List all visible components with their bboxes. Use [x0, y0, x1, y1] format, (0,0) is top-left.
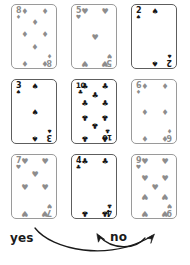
suit-hearts-icon: ♥	[140, 209, 150, 217]
suit-diamonds-icon: ♦	[30, 42, 40, 50]
suit-spades-icon: ♠	[30, 83, 40, 91]
suit-clubs-icon: ♣	[100, 83, 110, 91]
card-pip-field: ♥♥♥♥♥♥♥♥♥	[141, 158, 169, 217]
suit-diamonds-icon: ♦	[160, 109, 170, 117]
card-pip-field: ♠♠	[141, 8, 169, 67]
card-3-of-spades[interactable]: 3♠3♠♠♠♠	[11, 79, 57, 144]
suit-diamonds-icon: ♦	[20, 31, 30, 39]
suit-hearts-icon: ♥	[20, 209, 30, 217]
suit-clubs-icon: ♣	[100, 134, 110, 142]
suit-hearts-icon: ♥	[140, 175, 150, 183]
suit-clubs-icon: ♣	[80, 113, 90, 121]
suit-spades-icon: ♠	[30, 109, 40, 117]
card-6-of-diamonds[interactable]: 6♦6♦♦♦♦♦♦♦	[131, 79, 177, 144]
suit-diamonds-icon: ♦	[40, 59, 50, 67]
suit-hearts-icon: ♥	[40, 184, 50, 192]
suit-hearts-icon: ♥	[20, 184, 30, 192]
card-pip-field: ♣♣♣♣	[81, 158, 109, 217]
card-2-of-spades[interactable]: 2♠2♠♠♠	[131, 4, 177, 69]
suit-clubs-icon: ♣	[90, 92, 100, 100]
suit-clubs-icon: ♣	[80, 134, 90, 142]
suit-hearts-icon: ♥	[100, 8, 110, 16]
card-8-of-diamonds[interactable]: 8♦8♦♦♦♦♦♦♦♦♦	[11, 4, 57, 69]
card-pip-field: ♦♦♦♦♦♦♦♦	[21, 8, 49, 67]
suit-hearts-icon: ♥	[80, 8, 90, 16]
suit-diamonds-icon: ♦	[20, 59, 30, 67]
card-pip-field: ♦♦♦♦♦♦	[141, 83, 169, 142]
card-9-of-hearts[interactable]: 9♥9♥♥♥♥♥♥♥♥♥♥	[131, 154, 177, 219]
suit-diamonds-icon: ♦	[160, 83, 170, 91]
suit-diamonds-icon: ♦	[40, 31, 50, 39]
suit-clubs-icon: ♣	[80, 209, 90, 217]
no-arrow-head	[97, 234, 105, 243]
suit-spades-icon: ♠	[150, 59, 160, 67]
suit-hearts-icon: ♥	[40, 158, 50, 166]
card-pip-field: ♥♥♥♥♥	[81, 8, 109, 67]
card-pip-field: ♠♠♠	[21, 83, 49, 142]
suit-hearts-icon: ♥	[140, 192, 150, 200]
card-grid: 8♦8♦♦♦♦♦♦♦♦♦5♥5♥♥♥♥♥♥2♠2♠♠♠3♠3♠♠♠♠10♣10♣…	[11, 4, 177, 220]
suit-clubs-icon: ♣	[100, 113, 110, 121]
suit-hearts-icon: ♥	[40, 209, 50, 217]
suit-hearts-icon: ♥	[150, 184, 160, 192]
suit-spades-icon: ♠	[150, 8, 160, 16]
suit-diamonds-icon: ♦	[140, 109, 150, 117]
suit-clubs-icon: ♣	[100, 209, 110, 217]
suit-clubs-icon: ♣	[100, 100, 110, 108]
suit-hearts-icon: ♥	[90, 34, 100, 42]
yes-arrow-curve	[35, 228, 152, 251]
suit-spades-icon: ♠	[30, 134, 40, 142]
no-label: no	[110, 230, 127, 244]
card-pip-field: ♣♣♣♣♣♣♣♣♣♣	[81, 83, 109, 142]
card-10-of-clubs[interactable]: 10♣10♣♣♣♣♣♣♣♣♣♣♣	[71, 79, 117, 144]
suit-clubs-icon: ♣	[90, 121, 100, 129]
suit-diamonds-icon: ♦	[140, 83, 150, 91]
yes-arrow-head	[147, 234, 155, 243]
suit-hearts-icon: ♥	[80, 59, 90, 67]
card-7-of-hearts[interactable]: 7♥7♥♥♥♥♥♥♥♥	[11, 154, 57, 219]
suit-hearts-icon: ♥	[160, 209, 170, 217]
suit-diamonds-icon: ♦	[40, 8, 50, 16]
card-5-of-hearts[interactable]: 5♥5♥♥♥♥♥♥	[71, 4, 117, 69]
suit-hearts-icon: ♥	[30, 171, 40, 179]
card-pip-field: ♥♥♥♥♥♥♥	[21, 158, 49, 217]
suit-hearts-icon: ♥	[160, 192, 170, 200]
suit-diamonds-icon: ♦	[20, 8, 30, 16]
card-4-of-clubs[interactable]: 4♣4♣♣♣♣♣	[71, 154, 117, 219]
suit-hearts-icon: ♥	[20, 158, 30, 166]
suit-hearts-icon: ♥	[160, 175, 170, 183]
suit-clubs-icon: ♣	[80, 100, 90, 108]
suit-diamonds-icon: ♦	[30, 19, 40, 27]
suit-diamonds-icon: ♦	[160, 134, 170, 142]
suit-clubs-icon: ♣	[80, 83, 90, 91]
suit-hearts-icon: ♥	[100, 59, 110, 67]
suit-clubs-icon: ♣	[100, 158, 110, 166]
yes-label: yes	[10, 231, 34, 245]
suit-hearts-icon: ♥	[160, 158, 170, 166]
suit-hearts-icon: ♥	[140, 158, 150, 166]
suit-diamonds-icon: ♦	[140, 134, 150, 142]
suit-clubs-icon: ♣	[80, 158, 90, 166]
